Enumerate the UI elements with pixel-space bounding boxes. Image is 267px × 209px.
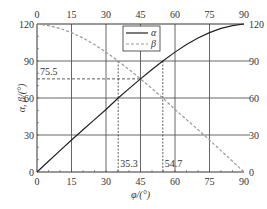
annotation-label: 54.7 <box>165 158 183 169</box>
y-tick-label: 120 <box>19 19 34 30</box>
right-tick-label: 0 <box>249 167 254 178</box>
right-tick-label: 90 <box>249 56 259 67</box>
y-tick-label: 90 <box>24 56 34 67</box>
x-tick-label: 0 <box>35 176 40 187</box>
right-tick-label: 120 <box>249 19 264 30</box>
top-tick-label: 75 <box>205 9 215 20</box>
y-tick-label: 30 <box>24 130 34 141</box>
right-tick-label: 30 <box>249 130 259 141</box>
legend-label: β <box>150 38 156 49</box>
top-tick-label: 30 <box>101 9 111 20</box>
x-axis-label: φ/(°) <box>131 189 151 201</box>
x-tick-label: 75 <box>205 176 215 187</box>
top-tick-label: 90 <box>239 9 249 20</box>
annotation-label: 35.3 <box>120 158 138 169</box>
top-tick-label: 0 <box>35 9 40 20</box>
right-tick-label: 60 <box>249 93 259 104</box>
top-tick-label: 15 <box>67 9 77 20</box>
x-tick-label: 15 <box>67 176 77 187</box>
y-tick-label: 0 <box>29 167 34 178</box>
x-tick-label: 45 <box>136 176 146 187</box>
x-tick-label: 90 <box>239 176 249 187</box>
x-tick-label: 60 <box>170 176 180 187</box>
y-axis-label: α, β/(°) <box>16 83 28 112</box>
chart: 0153045607590015304560759003060901200306… <box>0 0 267 209</box>
annotation-label: 75.5 <box>40 66 58 77</box>
legend-label: α <box>151 27 157 38</box>
top-tick-label: 45 <box>136 9 146 20</box>
x-tick-label: 30 <box>101 176 111 187</box>
top-tick-label: 60 <box>170 9 180 20</box>
